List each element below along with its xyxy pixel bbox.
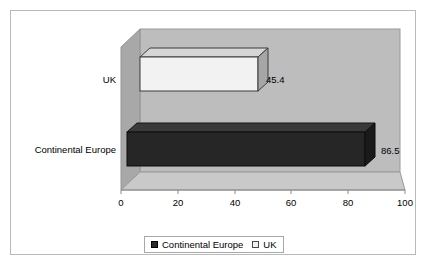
x-tick-label-60: 60: [276, 198, 306, 208]
chart-frame-border: [10, 10, 416, 255]
category-label-uk: UK: [103, 75, 116, 85]
legend-label-continental-europe: Continental Europe: [162, 239, 243, 250]
legend-item-uk[interactable]: UK: [252, 239, 276, 250]
legend-swatch-icon-uk: [252, 241, 259, 248]
category-label-continental-europe: Continental Europe: [35, 145, 116, 155]
x-tick-label-20: 20: [163, 198, 193, 208]
x-tick-label-100: 100: [390, 198, 420, 208]
legend-label-uk: UK: [263, 239, 276, 250]
chart-legend: Continental Europe UK: [144, 236, 284, 253]
chart-container: UK Continental Europe 45.4 86.5 0 20 40 …: [0, 0, 428, 267]
x-tick-label-80: 80: [333, 198, 363, 208]
x-tick-label-40: 40: [220, 198, 250, 208]
data-label-continental-europe: 86.5: [381, 146, 400, 156]
data-label-uk: 45.4: [266, 75, 285, 85]
legend-item-continental-europe[interactable]: Continental Europe: [151, 239, 243, 250]
legend-swatch-icon-continental-europe: [151, 241, 158, 248]
x-tick-label-0: 0: [106, 198, 136, 208]
